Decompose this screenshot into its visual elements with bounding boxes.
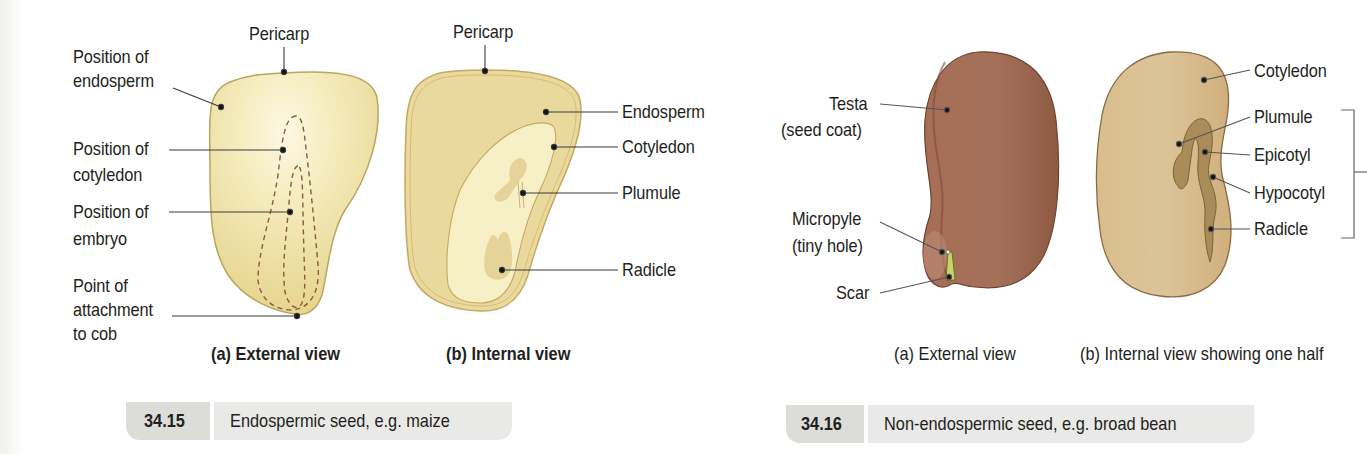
- label-tiny-hole: (tiny hole): [792, 234, 863, 258]
- seed-illustrations: [0, 0, 1367, 454]
- label-plumule-maize: Plumule: [622, 181, 680, 205]
- label-point-attachment-2: attachment: [73, 298, 153, 322]
- bean-internal-seed: [1096, 52, 1231, 297]
- label-position-embryo-1: Position of: [73, 200, 148, 224]
- label-position-cotyledon-1: Position of: [73, 137, 148, 161]
- figure-caption-text: Non-endospermic seed, e.g. broad bean: [868, 405, 1254, 443]
- label-position-embryo-2: embryo: [73, 227, 127, 251]
- figure-number: 34.15: [126, 402, 210, 440]
- maize-internal-view-title: (b) Internal view: [446, 342, 570, 366]
- maize-internal-seed: [405, 70, 581, 311]
- label-micropyle: Micropyle: [792, 207, 861, 231]
- maize-external-seed: [210, 72, 379, 315]
- label-position-endosperm-1: Position of: [73, 45, 148, 69]
- label-position-cotyledon-2: cotyledon: [73, 163, 142, 187]
- label-radicle-bean: Radicle: [1254, 217, 1308, 241]
- bean-external-view-title: (a) External view: [894, 342, 1016, 366]
- label-endosperm: Endosperm: [622, 100, 705, 124]
- label-seed-coat: (seed coat): [781, 118, 862, 142]
- label-point-attachment-3: to cob: [73, 322, 117, 346]
- label-cotyledon-maize: Cotyledon: [622, 135, 695, 159]
- label-epicotyl: Epicotyl: [1254, 143, 1311, 167]
- bean-internal-view-title: (b) Internal view showing one half: [1080, 342, 1323, 366]
- label-position-endosperm-2: endosperm: [73, 69, 154, 93]
- label-hypocotyl: Hypocotyl: [1254, 181, 1325, 205]
- figure-caption-34-16: 34.16 Non-endospermic seed, e.g. broad b…: [786, 405, 1254, 443]
- label-pericarp: Pericarp: [249, 22, 309, 46]
- figure-caption-34-15: 34.15 Endospermic seed, e.g. maize: [126, 402, 512, 440]
- label-plumule-bean: Plumule: [1254, 105, 1312, 129]
- label-cotyledon-bean: Cotyledon: [1254, 59, 1327, 83]
- figure-caption-text: Endospermic seed, e.g. maize: [214, 402, 512, 440]
- label-point-attachment-1: Point of: [73, 274, 128, 298]
- maize-external-view-title: (a) External view: [211, 342, 340, 366]
- label-pericarp-internal: Pericarp: [453, 20, 513, 44]
- label-radicle-maize: Radicle: [622, 258, 676, 282]
- label-scar: Scar: [836, 281, 869, 305]
- embryo-bracket: [1341, 110, 1367, 238]
- label-testa: Testa: [829, 92, 868, 116]
- figure-number: 34.16: [786, 405, 864, 443]
